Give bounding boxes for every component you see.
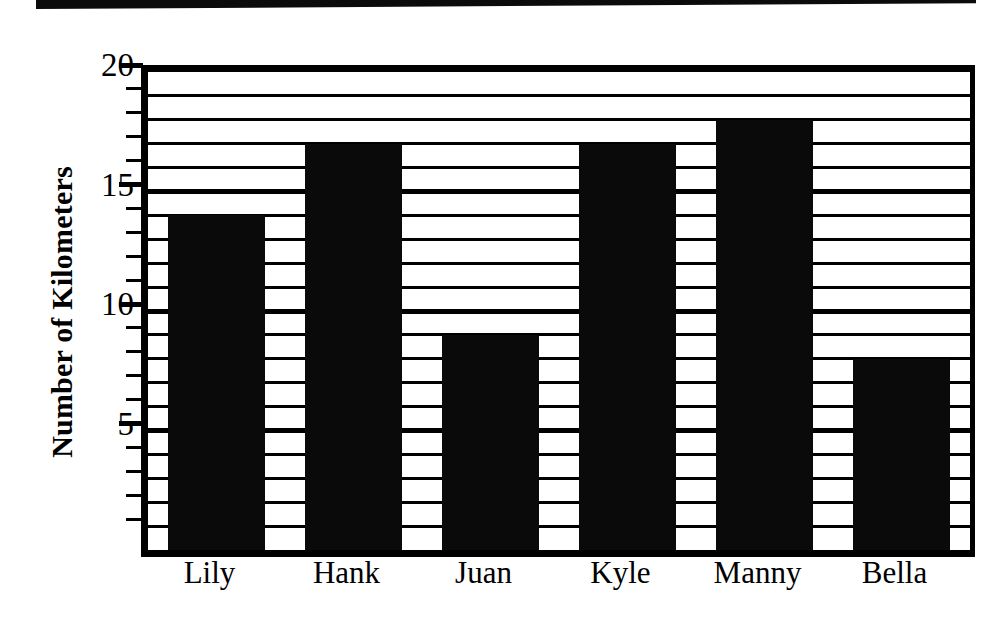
y-axis-title: Number of Kilometers (45, 132, 79, 492)
tick-mark-major (119, 63, 143, 68)
gridline-minor (148, 333, 970, 336)
gridline-minor (148, 118, 970, 121)
tick-mark-major (119, 421, 143, 426)
gridline-major (148, 428, 970, 433)
gridline-minor (148, 286, 970, 289)
tick-mark-major (119, 302, 143, 307)
gridline-minor (148, 94, 970, 97)
x-tick-label-bella: Bella (826, 556, 963, 590)
gridline-minor (148, 381, 970, 384)
tick-mark-major (119, 182, 143, 187)
gridline-major (148, 189, 970, 194)
x-tick-label-lily: Lily (141, 556, 278, 590)
bar-lily (168, 215, 266, 550)
plot-area (141, 65, 975, 557)
plot-inner (148, 72, 970, 550)
x-tick-label-juan: Juan (415, 556, 552, 590)
bar-chart-figure: Number of Kilometers 5101520 LilyHankJua… (0, 0, 996, 617)
bar-hank (305, 144, 403, 550)
bar-kyle (579, 144, 677, 550)
bar-juan (442, 335, 540, 550)
gridline-minor (148, 214, 970, 217)
x-tick-label-hank: Hank (278, 556, 415, 590)
gridline-major (148, 309, 970, 314)
gridline-minor (148, 405, 970, 408)
gridline-minor (148, 525, 970, 528)
y-axis-tick-marks (119, 65, 143, 543)
gridline-minor (148, 501, 970, 504)
gridline-minor (148, 142, 970, 145)
gridline-minor (148, 453, 970, 456)
gridline-minor (148, 238, 970, 241)
bar-bella (853, 359, 951, 550)
bar-manny (716, 120, 814, 550)
gridline-minor (148, 357, 970, 360)
x-axis-tick-labels: LilyHankJuanKyleMannyBella (141, 556, 963, 602)
x-tick-label-manny: Manny (689, 556, 826, 590)
gridline-minor (148, 166, 970, 169)
x-tick-label-kyle: Kyle (552, 556, 689, 590)
gridline-minor (148, 262, 970, 265)
gridline-minor (148, 477, 970, 480)
